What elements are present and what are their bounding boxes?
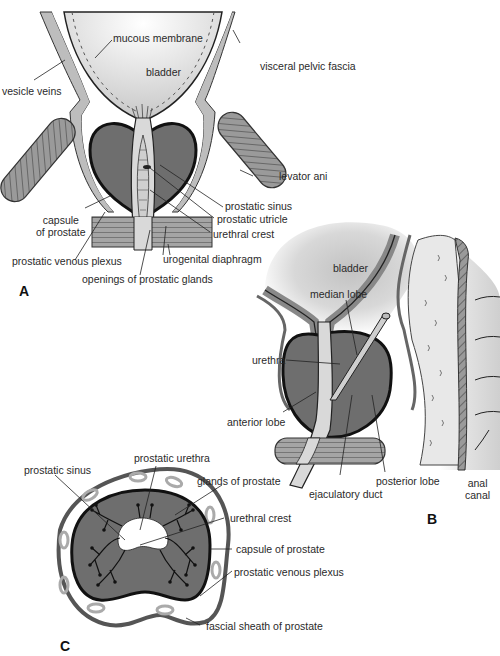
label-mucous-membrane: mucous membrane	[113, 32, 203, 44]
label-urethra: urethra	[252, 354, 285, 366]
label-anal-canal-line2: canal	[465, 489, 490, 501]
label-prostatic-sinus-a: prostatic sinus	[225, 200, 292, 212]
label-levator-ani: levator ani	[279, 170, 327, 182]
label-bladder-b: bladder	[333, 262, 368, 274]
label-prostatic-utricle: prostatic utricle	[217, 213, 288, 225]
label-capsule-of-prostate-c: capsule of prostate	[236, 543, 325, 555]
label-ejaculatory-duct: ejaculatory duct	[309, 488, 383, 500]
label-vesicle-veins: vesicle veins	[2, 85, 62, 97]
label-median-lobe: median lobe	[310, 288, 367, 300]
label-openings-of-prostatic-glands: openings of prostatic glands	[82, 273, 213, 285]
label-urethral-crest-c: urethral crest	[230, 512, 291, 524]
panel-letter-a: A	[19, 283, 29, 299]
label-posterior-lobe: posterior lobe	[376, 475, 440, 487]
label-prostatic-sinus-c: prostatic sinus	[24, 464, 91, 476]
label-prostatic-venous-plexus-c: prostatic venous plexus	[234, 566, 344, 578]
label-capsule-line1: capsule	[36, 214, 86, 226]
label-capsule-line2: of prostate	[36, 226, 86, 238]
panel-letter-b: B	[427, 511, 437, 527]
label-anal-canal-line1: anal	[465, 477, 490, 489]
label-anal-canal: anal canal	[465, 477, 490, 501]
label-capsule-of-prostate-a: capsule of prostate	[36, 214, 86, 238]
label-anterior-lobe: anterior lobe	[227, 416, 285, 428]
label-urogenital-diaphragm: urogenital diaphragm	[163, 253, 262, 265]
label-visceral-pelvic-fascia: visceral pelvic fascia	[260, 60, 356, 72]
panel-b-drawing	[257, 222, 500, 488]
label-prostatic-venous-plexus-a: prostatic venous plexus	[12, 255, 122, 267]
panel-c-drawing	[59, 469, 229, 625]
label-glands-of-prostate: glands of prostate	[197, 475, 280, 487]
panel-letter-c: C	[60, 638, 70, 654]
label-fascial-sheath-of-prostate: fascial sheath of prostate	[206, 620, 323, 632]
label-urethral-crest-a: urethral crest	[213, 228, 274, 240]
label-prostatic-urethra: prostatic urethra	[134, 452, 210, 464]
label-bladder-a: bladder	[146, 66, 181, 78]
prostate-anatomy-figure	[0, 0, 500, 656]
